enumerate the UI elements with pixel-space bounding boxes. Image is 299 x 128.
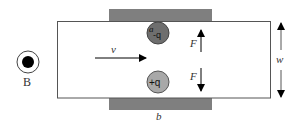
force-down-label: F — [189, 70, 197, 82]
top-plate — [109, 9, 212, 22]
hall-effect-diagram: B v a -q +q F F w b — [0, 0, 299, 128]
velocity-label: v — [111, 43, 116, 55]
bottom-plate — [109, 98, 212, 110]
field-label: B — [23, 75, 31, 89]
negative-charge-label: -q — [153, 30, 161, 40]
width-label: w — [276, 53, 284, 65]
field-out-of-page-icon — [17, 51, 39, 73]
positive-charge: +q — [147, 71, 169, 93]
negative-charge: a -q — [147, 22, 169, 44]
force-up-label: F — [189, 37, 197, 49]
positive-charge-label: +q — [149, 77, 160, 88]
plate-length-label: b — [156, 110, 162, 122]
